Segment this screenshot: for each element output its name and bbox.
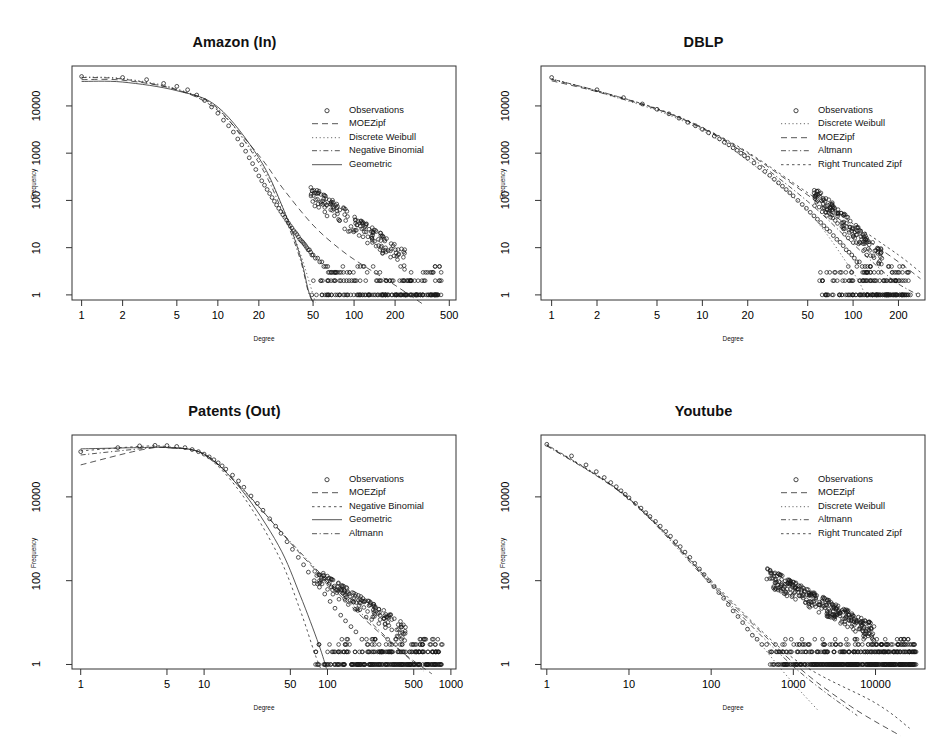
x-tick-label: 100	[297, 678, 357, 690]
legend-label: Altmann	[813, 144, 852, 157]
legend-item: Discrete Weibull	[779, 500, 902, 513]
y-tick-label: 1	[499, 634, 511, 694]
panel-patents-out: Patents (Out) ObservationsMOEZipfNegativ…	[0, 369, 469, 738]
x-tick-label: 10	[599, 678, 659, 690]
legend-item: Right Truncated Zipf	[779, 158, 902, 171]
legend-label: Negative Binomial	[344, 144, 424, 157]
x-tick-label: 200	[365, 309, 425, 321]
legend-item: Observations	[310, 473, 424, 486]
x-tick-label: 2	[93, 309, 153, 321]
y-axis-title: Frequency	[30, 169, 37, 199]
y-axis-title: Frequency	[499, 538, 506, 568]
x-axis-title: Degree	[72, 335, 456, 342]
legend-label: Discrete Weibull	[813, 117, 885, 130]
legend-point-marker-icon	[310, 473, 344, 486]
legend-label: Altmann	[344, 527, 383, 540]
legend-item: Altmann	[779, 144, 902, 157]
legend-label: Altmann	[813, 513, 852, 526]
legend-line-swatch-icon	[310, 486, 344, 499]
legend-label: Observations	[344, 473, 404, 486]
legend-item: Geometric	[310, 158, 424, 171]
legend-item: Altmann	[779, 513, 902, 526]
panel-amazon-in: Amazon (In) ObservationsMOEZipfDiscrete …	[0, 0, 469, 369]
legend-line-swatch-icon	[779, 513, 813, 526]
legend-item: MOEZipf	[310, 117, 424, 130]
legend-line-swatch-icon	[310, 527, 344, 540]
legend-item: MOEZipf	[779, 486, 902, 499]
panel-youtube: Youtube ObservationsMOEZipfDiscrete Weib…	[469, 369, 938, 738]
x-tick-label: 1	[51, 678, 111, 690]
legend-youtube: ObservationsMOEZipfDiscrete WeibullAltma…	[779, 473, 902, 540]
legend-point-marker-icon	[310, 104, 344, 117]
fitted-curve	[81, 447, 327, 668]
legend-item: Discrete Weibull	[779, 117, 902, 130]
legend-point-marker-icon	[779, 104, 813, 117]
legend-item: Negative Binomial	[310, 500, 424, 513]
legend-label: Observations	[344, 104, 404, 117]
x-tick-label: 20	[229, 309, 289, 321]
legend-line-swatch-icon	[779, 486, 813, 499]
figure-panel-grid: Amazon (In) ObservationsMOEZipfDiscrete …	[0, 0, 939, 739]
legend-point-marker-icon	[779, 473, 813, 486]
legend-line-swatch-icon	[779, 158, 813, 171]
legend-label: Observations	[813, 473, 873, 486]
legend-item: Right Truncated Zipf	[779, 527, 902, 540]
x-axis-title: Degree	[541, 704, 925, 711]
legend-item: Observations	[310, 104, 424, 117]
legend-label: Right Truncated Zipf	[813, 527, 902, 540]
legend-line-swatch-icon	[310, 117, 344, 130]
x-tick-label: 10000	[846, 678, 906, 690]
y-tick-label: 10000	[499, 76, 511, 136]
legend-label: Geometric	[344, 513, 392, 526]
legend-label: Right Truncated Zipf	[813, 158, 902, 171]
x-tick-label: 20	[718, 309, 778, 321]
legend-item: Observations	[779, 104, 902, 117]
y-axis-title: Frequency	[499, 169, 506, 199]
y-tick-label: 1	[30, 634, 42, 694]
y-axis-title: Frequency	[30, 538, 37, 568]
y-tick-label: 10000	[499, 467, 511, 527]
legend-line-swatch-icon	[310, 131, 344, 144]
y-tick-label: 10000	[30, 76, 42, 136]
legend-line-swatch-icon	[310, 513, 344, 526]
legend-label: MOEZipf	[813, 131, 855, 144]
legend-label: MOEZipf	[344, 117, 386, 130]
legend-label: Discrete Weibull	[344, 131, 416, 144]
x-tick-label: 100	[681, 678, 741, 690]
legend-line-swatch-icon	[310, 500, 344, 513]
legend-item: MOEZipf	[779, 131, 902, 144]
legend-item: Discrete Weibull	[310, 131, 424, 144]
fitted-curve	[82, 77, 316, 302]
legend-item: Observations	[779, 473, 902, 486]
fitted-curve	[82, 81, 313, 302]
legend-line-swatch-icon	[779, 131, 813, 144]
legend-label: MOEZipf	[813, 486, 855, 499]
legend-item: Geometric	[310, 513, 424, 526]
legend-line-swatch-icon	[779, 117, 813, 130]
fitted-curve	[82, 77, 313, 302]
legend-item: Negative Binomial	[310, 144, 424, 157]
x-tick-label: 2	[567, 309, 627, 321]
legend-dblp: ObservationsDiscrete WeibullMOEZipfAltma…	[779, 104, 902, 171]
legend-line-swatch-icon	[310, 144, 344, 157]
legend-item: Altmann	[310, 527, 424, 540]
x-tick-label: 200	[868, 309, 928, 321]
legend-label: Discrete Weibull	[813, 500, 885, 513]
legend-line-swatch-icon	[779, 500, 813, 513]
x-axis-title: Degree	[72, 704, 456, 711]
x-tick-label: 10	[174, 678, 234, 690]
panel-dblp: DBLP ObservationsDiscrete WeibullMOEZipf…	[469, 0, 938, 369]
x-axis-title: Degree	[541, 335, 925, 342]
x-tick-label: 1000	[763, 678, 823, 690]
legend-patents-out: ObservationsMOEZipfNegative BinomialGeom…	[310, 473, 424, 540]
legend-item: MOEZipf	[310, 486, 424, 499]
y-tick-label: 10000	[30, 467, 42, 527]
legend-label: Negative Binomial	[344, 500, 424, 513]
legend-line-swatch-icon	[779, 527, 813, 540]
legend-label: Geometric	[344, 158, 392, 171]
legend-line-swatch-icon	[310, 158, 344, 171]
x-tick-label: 1	[517, 678, 577, 690]
legend-label: MOEZipf	[344, 486, 386, 499]
legend-amazon-in: ObservationsMOEZipfDiscrete WeibullNegat…	[310, 104, 424, 171]
legend-line-swatch-icon	[779, 144, 813, 157]
